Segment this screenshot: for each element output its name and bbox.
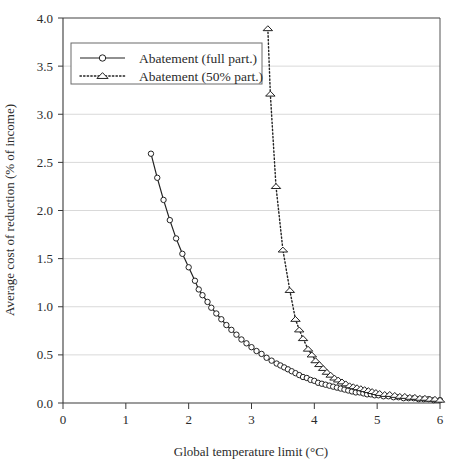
y-axis-tick-labels: 0.00.51.01.52.02.53.03.54.0 [37, 11, 53, 411]
x-tick-label: 6 [437, 412, 444, 427]
data-marker-circle [234, 332, 239, 337]
data-marker-circle [214, 311, 219, 316]
y-tick-label: 0.0 [37, 396, 53, 411]
data-marker-circle [249, 344, 254, 349]
y-tick-label: 4.0 [37, 11, 53, 26]
data-marker-circle [209, 305, 214, 310]
y-tick-label: 3.0 [37, 107, 53, 122]
data-marker-circle [269, 358, 274, 363]
chart-canvas: 0123456 0.00.51.01.52.02.53.03.54.0 Abat… [0, 0, 453, 471]
x-tick-label: 4 [311, 412, 318, 427]
data-marker-circle [186, 265, 191, 270]
chart-legend[interactable]: Abatement (full part.)Abatement (50% par… [71, 43, 263, 84]
data-marker-circle [259, 351, 264, 356]
data-marker-circle [161, 197, 166, 202]
data-marker-circle [200, 293, 205, 298]
y-axis-title: Average cost of reduction (% of income) [2, 104, 17, 316]
y-tick-label: 1.0 [37, 299, 53, 314]
data-marker-circle [254, 348, 259, 353]
legend-label: Abatement (50% part.) [139, 69, 263, 84]
x-tick-label: 1 [123, 412, 130, 427]
data-marker-circle [219, 317, 224, 322]
y-tick-label: 0.5 [37, 347, 53, 362]
x-axis-title: Global temperature limit (°C) [174, 444, 328, 459]
x-tick-label: 2 [185, 412, 192, 427]
data-marker-circle [173, 236, 178, 241]
legend-label: Abatement (full part.) [139, 51, 257, 66]
data-marker-circle [99, 55, 105, 61]
y-tick-label: 3.5 [37, 59, 53, 74]
x-tick-label: 5 [374, 412, 381, 427]
data-marker-circle [167, 217, 172, 222]
data-marker-circle [155, 175, 160, 180]
data-marker-circle [224, 322, 229, 327]
data-marker-circle [196, 287, 201, 292]
y-tick-label: 2.0 [37, 203, 53, 218]
data-marker-circle [205, 299, 210, 304]
data-marker-circle [148, 151, 153, 156]
x-tick-label: 3 [248, 412, 255, 427]
data-marker-circle [244, 341, 249, 346]
data-marker-circle [229, 327, 234, 332]
x-tick-label: 0 [60, 412, 67, 427]
y-tick-label: 1.5 [37, 251, 53, 266]
y-tick-label: 2.5 [37, 155, 53, 170]
data-marker-circle [192, 278, 197, 283]
data-marker-circle [239, 337, 244, 342]
data-marker-circle [180, 251, 185, 256]
chart-figure: 0123456 0.00.51.01.52.02.53.03.54.0 Abat… [0, 0, 453, 471]
data-marker-circle [264, 355, 269, 360]
